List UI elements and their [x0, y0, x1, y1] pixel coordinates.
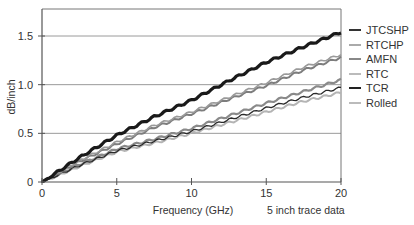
- y-tick-label: 0.5: [18, 127, 33, 139]
- legend-item-rtc: RTC: [349, 67, 409, 82]
- legend-label: AMFN: [366, 52, 397, 66]
- legend-item-rolled: Rolled: [349, 96, 409, 111]
- legend-label: Rolled: [366, 96, 397, 110]
- legend-swatch: [349, 87, 361, 89]
- plot-frame: [42, 9, 341, 182]
- x-tick-label: 10: [185, 187, 197, 199]
- y-tick-label: 1.5: [18, 30, 33, 42]
- x-tick-label: 5: [114, 187, 120, 199]
- y-tick-label: 0: [27, 176, 33, 188]
- legend: JTCSHP RTCHP AMFN RTC TCR Rolled: [349, 23, 409, 110]
- tick-labels: 0510152000.51.01.5: [18, 30, 347, 199]
- legend-swatch: [349, 73, 361, 75]
- y-axis-title: dB/inch: [5, 79, 17, 114]
- legend-label: RTC: [366, 67, 388, 81]
- legend-label: JTCSHP: [366, 23, 409, 37]
- legend-item-tcr: TCR: [349, 81, 409, 96]
- x-tick-label: 0: [39, 187, 45, 199]
- legend-item-rtchp: RTCHP: [349, 38, 409, 53]
- x-axis-title: Frequency (GHz): [153, 204, 234, 216]
- series-lines: [42, 33, 341, 182]
- legend-swatch: [349, 58, 361, 60]
- series-rolled: [42, 93, 341, 183]
- legend-label: RTCHP: [366, 38, 404, 52]
- x-tick-label: 20: [335, 187, 347, 199]
- legend-swatch: [349, 102, 361, 104]
- x-tick-label: 15: [260, 187, 272, 199]
- legend-label: TCR: [366, 81, 389, 95]
- legend-swatch: [349, 29, 361, 31]
- series-tcr: [42, 87, 341, 182]
- legend-item-amfn: AMFN: [349, 52, 409, 67]
- y-tick-label: 1.0: [18, 79, 33, 91]
- legend-swatch: [349, 44, 361, 46]
- legend-item-jtcshp: JTCSHP: [349, 23, 409, 38]
- annotation-text: 5 inch trace data: [267, 204, 345, 216]
